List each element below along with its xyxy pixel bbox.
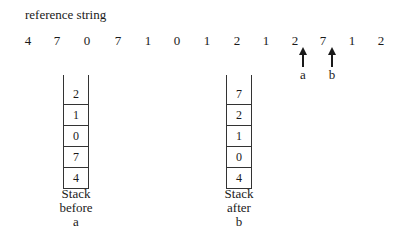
ref-item: 0 [80,33,94,49]
arrow-label: b [325,68,339,81]
ref-item: 4 [21,33,35,49]
stack-cell: 7 [226,84,252,105]
arrow-up-icon [328,47,336,55]
stack-caption: Stack after b [209,187,269,229]
stack-cell: 0 [226,147,252,168]
stack-cell: 0 [63,126,89,147]
ref-item: 1 [345,33,359,49]
ref-item: 0 [170,33,184,49]
arrow-label: a [296,68,310,81]
stack-caption: Stack before a [46,187,106,229]
stack-after-b: 7 2 1 0 4 [226,75,252,189]
arrow-a: a [296,47,310,81]
arrow-up-icon [299,47,307,55]
ref-item: 7 [50,33,64,49]
stack-cell: 1 [63,105,89,126]
arrow-b: b [325,47,339,81]
ref-item: 1 [259,33,273,49]
ref-item: 1 [141,33,155,49]
ref-item: 7 [111,33,125,49]
ref-item: 2 [230,33,244,49]
stack-cell: 7 [63,147,89,168]
stack-cell: 2 [63,84,89,105]
stack-before-a: 2 1 0 7 4 [63,75,89,189]
stack-cell: 1 [226,126,252,147]
reference-string-title: reference string [25,7,106,23]
ref-item: 1 [200,33,214,49]
stack-cell: 2 [226,105,252,126]
ref-item: 2 [374,33,388,49]
